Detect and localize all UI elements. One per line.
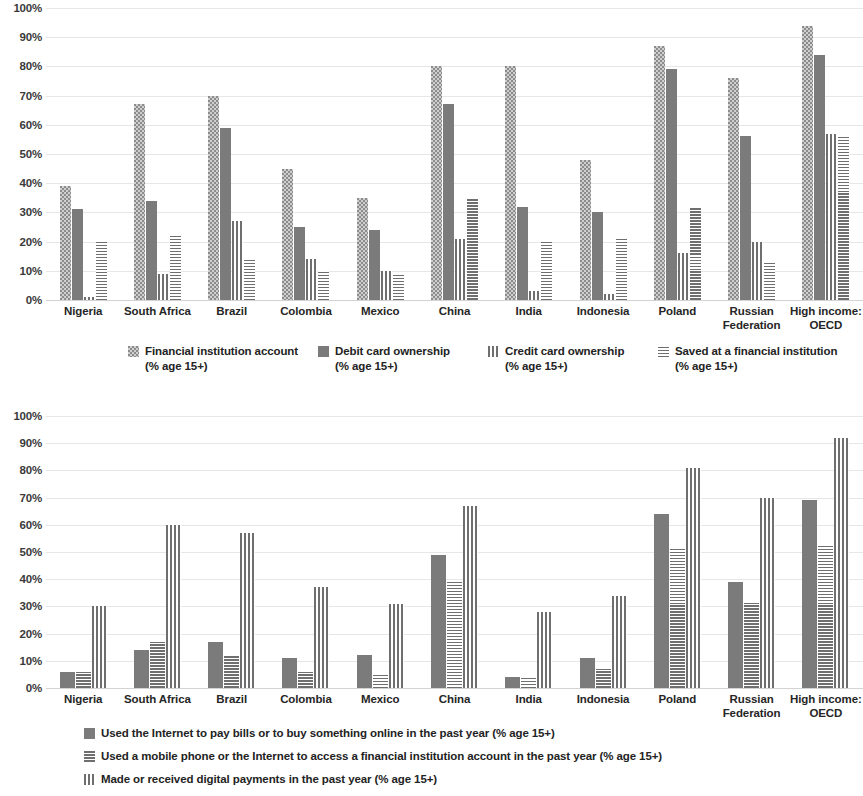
x-axis-category-label-line: Colombia [269, 305, 343, 319]
x-axis-category-label: RussianFederation [714, 305, 788, 332]
bar-group [566, 8, 640, 300]
x-axis-category-label: Poland [640, 693, 714, 707]
y-axis-tick-label: 40% [20, 573, 42, 585]
x-axis-category-label-line: Federation [714, 707, 788, 721]
y-axis-tick-label: 0% [26, 682, 42, 694]
bar-group [714, 416, 788, 688]
bar-group-bars [417, 8, 491, 300]
legend-item[interactable]: Saved at a financial institution(% age 1… [658, 344, 863, 373]
legend-swatch-icon [84, 751, 95, 762]
x-axis-category-label-line: High income: [789, 305, 863, 319]
bar [240, 533, 255, 688]
bar [654, 514, 669, 688]
x-axis-category-label: India [492, 305, 566, 319]
legend-label-line1: Used the Internet to pay bills or to buy… [101, 726, 555, 741]
bar [443, 104, 454, 300]
bar-group-bars [195, 8, 269, 300]
x-axis-category-label: China [417, 305, 491, 319]
bar [134, 650, 149, 688]
y-axis-tick-label: 80% [20, 464, 42, 476]
figure-page: 100%90%80%70%60%50%40%30%20%10%0% Nigeri… [0, 0, 863, 796]
bar [802, 26, 813, 300]
bar [654, 46, 665, 300]
bar [690, 207, 701, 300]
bar [158, 274, 169, 300]
x-axis-category-label: India [492, 693, 566, 707]
chart1-y-axis: 100%90%80%70%60%50%40%30%20%10%0% [0, 8, 46, 300]
bar [294, 227, 305, 300]
chart-financial-inclusion-indicators: 100%90%80%70%60%50%40%30%20%10%0% Nigeri… [0, 0, 863, 340]
bar-group-bars [269, 416, 343, 688]
bar [467, 198, 478, 300]
gridline [46, 688, 863, 689]
bar [72, 209, 83, 300]
bar [529, 291, 540, 300]
legend-swatch-icon [318, 346, 329, 357]
bar [431, 66, 442, 300]
bar-group [492, 8, 566, 300]
bar [505, 66, 516, 300]
bar-group [269, 8, 343, 300]
bar-group [640, 416, 714, 688]
bar [314, 587, 329, 688]
bar-group-bars [492, 8, 566, 300]
bar [616, 239, 627, 300]
legend-item[interactable]: Debit card ownership(% age 15+) [318, 344, 488, 373]
y-axis-tick-label: 70% [20, 90, 42, 102]
legend-label-line2: (% age 15+) [145, 359, 298, 374]
legend-label: Credit card ownership(% age 15+) [505, 344, 624, 373]
chart2-x-axis-labels: NigeriaSouth AfricaBrazilColombiaMexicoC… [46, 693, 863, 725]
legend-label-line2: (% age 15+) [675, 359, 837, 374]
bar [678, 253, 689, 300]
bar [84, 297, 95, 300]
bar [596, 669, 611, 688]
x-axis-category-label-line: India [492, 693, 566, 707]
x-axis-category-label-line: Poland [640, 693, 714, 707]
y-axis-tick-label: 30% [20, 600, 42, 612]
y-axis-tick-label: 10% [20, 265, 42, 277]
bar [537, 612, 552, 688]
bar [306, 259, 317, 300]
legend-label: Debit card ownership(% age 15+) [335, 344, 450, 373]
bar-group-bars [640, 416, 714, 688]
bar-group-bars [714, 8, 788, 300]
bar [92, 606, 107, 688]
legend-item[interactable]: Made or received digital payments in the… [84, 772, 854, 787]
bar [134, 104, 145, 300]
bar-group [195, 416, 269, 688]
x-axis-category-label-line: India [492, 305, 566, 319]
bar [60, 672, 75, 688]
bar [298, 672, 313, 688]
legend-item[interactable]: Credit card ownership(% age 15+) [488, 344, 658, 373]
y-axis-tick-label: 40% [20, 177, 42, 189]
y-axis-tick-label: 60% [20, 519, 42, 531]
bar [381, 271, 392, 300]
bar [463, 506, 478, 688]
bar [170, 236, 181, 300]
bar-group-bars [195, 416, 269, 688]
bar-group-bars [566, 8, 640, 300]
bar [447, 582, 462, 688]
x-axis-category-label: Brazil [195, 693, 269, 707]
bar [666, 69, 677, 300]
bar [612, 596, 627, 688]
bar-group [46, 8, 120, 300]
bar [60, 186, 71, 300]
bar-group [417, 8, 491, 300]
bar [818, 544, 833, 688]
x-axis-category-label-line: Indonesia [566, 693, 640, 707]
bar [814, 55, 825, 300]
x-axis-category-label: South Africa [120, 305, 194, 319]
x-axis-category-label-line: Nigeria [46, 693, 120, 707]
legend-item[interactable]: Used the Internet to pay bills or to buy… [84, 726, 854, 741]
y-axis-tick-label: 100% [13, 2, 42, 14]
legend-item[interactable]: Financial institution account(% age 15+) [128, 344, 318, 373]
legend-item[interactable]: Used a mobile phone or the Internet to a… [84, 749, 854, 764]
x-axis-category-label-line: Nigeria [46, 305, 120, 319]
legend-label-line1: Used a mobile phone or the Internet to a… [101, 749, 662, 764]
x-axis-category-label: Nigeria [46, 305, 120, 319]
bar [517, 207, 528, 300]
legend-swatch-icon [488, 346, 499, 357]
x-axis-category-label: Indonesia [566, 305, 640, 319]
bar [373, 674, 388, 688]
